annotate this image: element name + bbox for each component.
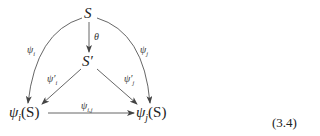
- equation-number: (3.4): [272, 116, 297, 129]
- node-psi-j-S-arg: (S): [148, 104, 166, 120]
- label-psi-j-prime: ψ′j: [124, 74, 134, 87]
- label-psi-i: ψi: [27, 45, 35, 58]
- label-psi-ij: ψi,j: [81, 101, 92, 114]
- label-psi-j-prime-sub: j: [132, 79, 134, 86]
- node-psi-i-S: ψi(S): [9, 105, 39, 123]
- label-psi-ij-sub: i,j: [87, 106, 92, 113]
- node-psi-i-S-arg: (S): [21, 104, 39, 120]
- node-S-prime: S′: [82, 54, 93, 69]
- label-psi-j: ψj: [140, 45, 148, 58]
- label-theta: θ: [94, 32, 99, 42]
- node-psi-j-S-base: ψ: [136, 104, 145, 120]
- arrow-psi-j: [97, 18, 150, 103]
- label-psi-i-sub: i: [33, 50, 35, 57]
- node-S: S: [84, 6, 92, 21]
- node-psi-i-S-base: ψ: [9, 104, 18, 120]
- node-psi-j-S: ψj(S): [136, 105, 166, 123]
- arrow-psi-i: [28, 18, 82, 103]
- label-psi-i-prime: ψ′i: [47, 74, 57, 87]
- label-psi-j-sub: j: [146, 50, 148, 57]
- label-psi-i-prime-sub: i: [55, 79, 57, 86]
